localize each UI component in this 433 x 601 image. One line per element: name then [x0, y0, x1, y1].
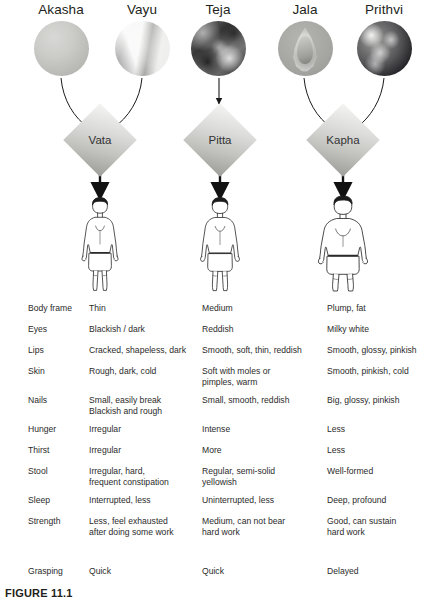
row-trait-label: Grasping [28, 566, 88, 577]
row-trait-label: Strength [28, 516, 88, 527]
row-trait-label: Sleep [28, 495, 88, 506]
row-vata-value: Interrupted, less [89, 495, 201, 506]
ayurveda-dosha-figure: Akasha Vayu Teja Jala Prithvi [0, 0, 433, 601]
table-row: Thirst Irregular More Less [0, 445, 433, 466]
row-kapha-value: Delayed [327, 566, 431, 577]
row-kapha-value: Milky white [327, 324, 431, 335]
row-pitta-value: Uninterrupted, less [202, 495, 326, 506]
table-row: Sleep Interrupted, less Uninterrupted, l… [0, 495, 433, 516]
row-vata-value: Irregular, hard, frequent constipation [89, 466, 201, 487]
row-trait-label: Hunger [28, 424, 88, 435]
row-pitta-value: Soft with moles or pimples, warm [202, 366, 326, 387]
element-label-jala: Jala [277, 2, 333, 17]
trait-comparison-table: Body frame Thin Medium Plump, fat Eyes B… [0, 303, 433, 587]
sphere-earth-globe-icon [357, 21, 412, 76]
table-row: Lips Cracked, shapeless, dark Smooth, so… [0, 345, 433, 366]
element-vayu: Vayu [114, 2, 170, 76]
row-pitta-value: Medium, can not bear hard work [202, 516, 326, 537]
row-vata-value: Small, easily break Blackish and rough [89, 395, 201, 416]
row-vata-value: Blackish / dark [89, 324, 201, 335]
row-kapha-value: Good, can sustain hard work [327, 516, 431, 537]
sphere-smooth-grey-icon [34, 21, 89, 76]
row-trait-label: Body frame [28, 303, 88, 314]
table-row: Skin Rough, dark, cold Soft with moles o… [0, 366, 433, 395]
row-vata-value: Irregular [89, 445, 201, 456]
element-akasha: Akasha [33, 2, 89, 76]
element-label-vayu: Vayu [114, 2, 170, 17]
row-kapha-value: Smooth, pinkish, cold [327, 366, 431, 377]
element-label-prithvi: Prithvi [356, 2, 412, 17]
water-droplet-shape-icon [291, 28, 319, 72]
row-pitta-value: Medium [202, 303, 326, 314]
medium-body-figure [194, 196, 246, 292]
row-pitta-value: Small, smooth, reddish [202, 395, 326, 406]
table-row: Grasping Quick Quick Delayed [0, 566, 433, 587]
table-row: Nails Small, easily break Blackish and r… [0, 395, 433, 424]
row-kapha-value: Less [327, 445, 431, 456]
row-vata-value: Irregular [89, 424, 201, 435]
table-row: Hunger Irregular Intense Less [0, 424, 433, 445]
plump-body-figure [313, 194, 373, 292]
dosha-kapha: Kapha [317, 114, 369, 166]
element-label-teja: Teja [190, 2, 246, 17]
row-vata-value: Quick [89, 566, 201, 577]
row-trait-label: Lips [28, 345, 88, 356]
row-kapha-value: Less [327, 424, 431, 435]
table-row: Body frame Thin Medium Plump, fat [0, 303, 433, 324]
row-trait-label: Skin [28, 366, 88, 377]
element-prithvi: Prithvi [356, 2, 412, 76]
row-pitta-value: Reddish [202, 324, 326, 335]
row-vata-value: Cracked, shapeless, dark [89, 345, 201, 356]
element-jala: Jala [277, 2, 333, 76]
row-vata-value: Thin [89, 303, 201, 314]
row-trait-label: Stool [28, 466, 88, 477]
row-pitta-value: Quick [202, 566, 326, 577]
thin-body-figure [74, 196, 126, 292]
row-kapha-value: Smooth, glossy, pinkish [327, 345, 431, 356]
dosha-vata: Vata [74, 114, 126, 166]
figure-caption: FIGURE 11.1 [5, 587, 73, 599]
row-pitta-value: Smooth, soft, thin, reddish [202, 345, 326, 356]
sphere-fire-mottled-icon [191, 21, 246, 76]
row-trait-label: Thirst [28, 445, 88, 456]
row-kapha-value: Big, glossy, pinkish [327, 395, 431, 406]
row-pitta-value: Regular, semi-solid yellowish [202, 466, 326, 487]
row-pitta-value: More [202, 445, 326, 456]
row-kapha-value: Well-formed [327, 466, 431, 477]
table-row: Strength Less, feel exhausted after doin… [0, 516, 433, 566]
row-pitta-value: Intense [202, 424, 326, 435]
table-row: Stool Irregular, hard, frequent constipa… [0, 466, 433, 495]
element-label-akasha: Akasha [33, 2, 89, 17]
sphere-water-droplet-icon [278, 21, 333, 76]
dosha-label-vata: Vata [74, 114, 126, 166]
dosha-label-pitta: Pitta [194, 114, 246, 166]
row-vata-value: Rough, dark, cold [89, 366, 201, 377]
element-teja: Teja [190, 2, 246, 76]
row-kapha-value: Plump, fat [327, 303, 431, 314]
row-kapha-value: Deep, profound [327, 495, 431, 506]
row-vata-value: Less, feel exhausted after doing some wo… [89, 516, 201, 537]
table-row: Eyes Blackish / dark Reddish Milky white [0, 324, 433, 345]
row-trait-label: Nails [28, 395, 88, 406]
row-trait-label: Eyes [28, 324, 88, 335]
dosha-label-kapha: Kapha [317, 114, 369, 166]
sphere-wind-streaks-icon [115, 21, 170, 76]
dosha-pitta: Pitta [194, 114, 246, 166]
